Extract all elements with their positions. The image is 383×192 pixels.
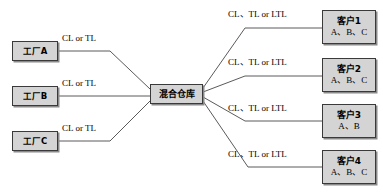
customer-4-products: A、B、C <box>331 167 368 178</box>
customer-2[interactable]: 客户2A、B、C <box>322 58 376 92</box>
edge-customer-2 <box>203 76 322 92</box>
customer-3-label: 客户3 <box>337 110 361 121</box>
edge-factory-a-label: CL or TL <box>62 33 96 43</box>
edge-customer-3-label: CL、TL or LTL <box>228 103 287 113</box>
customer-3-products: A、B <box>338 121 360 132</box>
customer-3[interactable]: 客户3A、B <box>322 104 376 138</box>
diagram-canvas: CL or TLCL or TLCL or TLCL、TL or LTLCL、T… <box>0 0 383 192</box>
edge-customer-4-label: CL、TL or LTL <box>228 149 287 159</box>
mixed-warehouse[interactable]: 混合仓库 <box>150 84 203 104</box>
customer-1-label: 客户1 <box>337 16 361 27</box>
customer-1[interactable]: 客户1A、B、C <box>322 10 376 44</box>
mixed-warehouse-label: 混合仓库 <box>159 89 195 100</box>
customer-2-label: 客户2 <box>337 64 361 75</box>
customer-4[interactable]: 客户4A、B、C <box>322 150 376 184</box>
edge-customer-2-label: CL、TL or LTL <box>228 57 287 67</box>
edge-customer-1-label: CL、TL or LTL <box>228 9 287 19</box>
factory-b[interactable]: 工厂B <box>12 86 58 106</box>
customer-2-products: A、B、C <box>331 75 368 86</box>
edge-factory-b-label: CL or TL <box>62 78 96 88</box>
customer-4-label: 客户4 <box>337 156 361 167</box>
factory-c[interactable]: 工厂C <box>12 131 58 151</box>
factory-b-label: 工厂B <box>23 91 47 102</box>
customer-1-products: A、B、C <box>331 27 368 38</box>
factory-a[interactable]: 工厂A <box>12 41 58 61</box>
edge-factory-c-label: CL or TL <box>62 123 96 133</box>
edge-factory-c <box>59 101 150 141</box>
factory-a-label: 工厂A <box>23 46 48 57</box>
factory-c-label: 工厂C <box>23 136 47 147</box>
